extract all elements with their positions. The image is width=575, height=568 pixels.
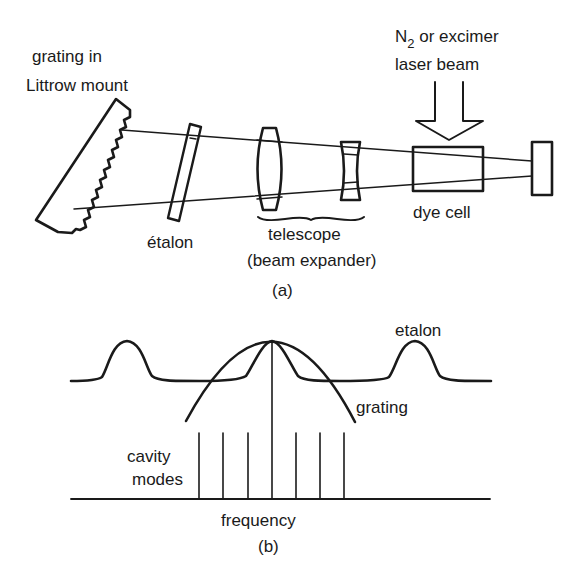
frequency-axis-label: frequency [221, 511, 296, 530]
part-a-optical-layout: grating in Littrow mount étalon [26, 27, 552, 300]
pump-label-line1: N2 or excimer [395, 27, 499, 51]
telescope-label-line1: telescope [268, 225, 341, 244]
etalon-curve-label: etalon [395, 321, 441, 340]
grating-curve [186, 342, 355, 422]
cavity-label-line2: modes [132, 470, 183, 489]
pump-arrow-icon [416, 82, 483, 140]
telescope-brace-icon [258, 217, 364, 220]
pump-label-line2: laser beam [395, 55, 479, 74]
grating-curve-label: grating [356, 398, 408, 417]
telescope-label-line2: (beam expander) [247, 251, 376, 270]
grating-label-line1: grating in [32, 47, 102, 66]
cavity-modes [199, 341, 344, 499]
etalon-label: étalon [147, 233, 193, 252]
cavity-label-line1: cavity [127, 447, 171, 466]
etalon-icon [168, 124, 201, 221]
grating-label-line2: Littrow mount [26, 76, 128, 95]
part-a-caption: (a) [272, 281, 293, 300]
part-b-caption: (b) [258, 537, 279, 556]
beam-path [74, 130, 532, 209]
etalon-curve [71, 341, 491, 381]
dye-cell-label: dye cell [413, 203, 471, 222]
concave-lens-icon [341, 142, 360, 200]
part-b-spectrum: etalon grating cavity modes frequency (b… [71, 321, 491, 556]
output-mirror-icon [532, 142, 552, 195]
dye-laser-figure: grating in Littrow mount étalon [0, 0, 575, 568]
grating-icon [36, 99, 130, 233]
